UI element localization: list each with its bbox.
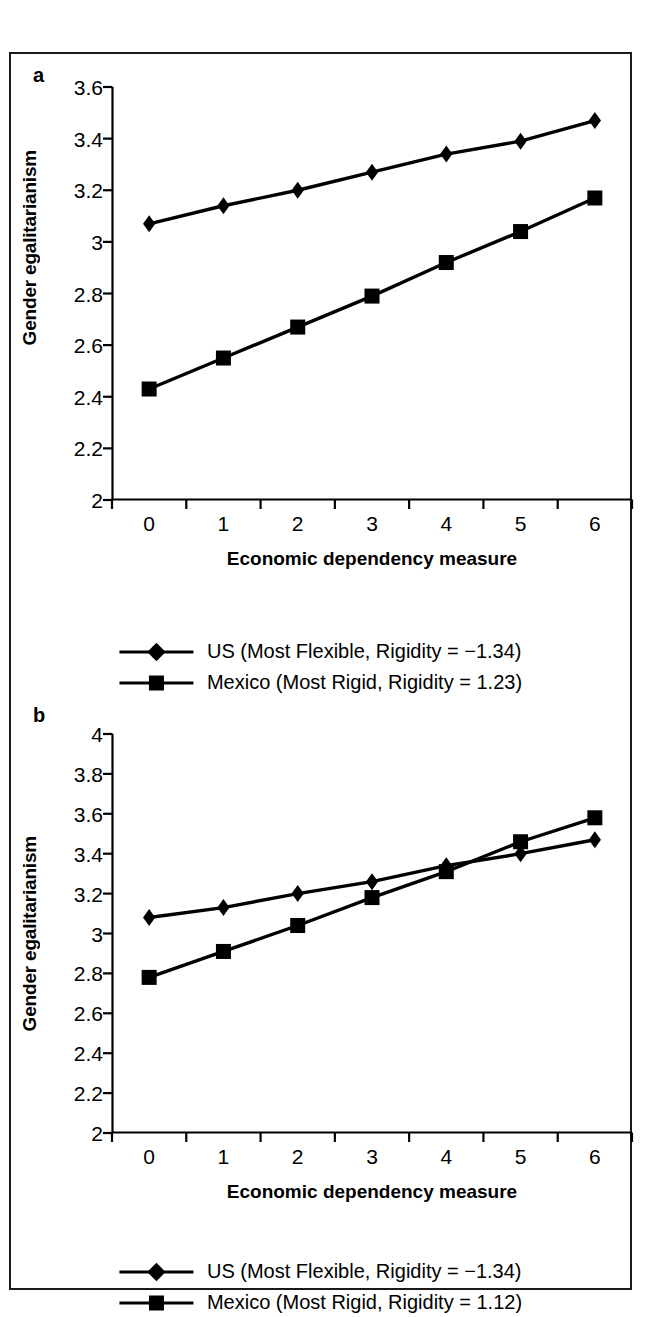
y-tick-label: 2.2 [74, 1083, 103, 1104]
x-tick-label: 0 [143, 513, 155, 534]
legend-item-us: US (Most Flexible, Rigidity = −1.34) [119, 1256, 522, 1287]
y-tick-label: 2 [91, 490, 103, 511]
y-tick-label: 2.8 [74, 963, 103, 984]
x-tick-label: 6 [589, 1146, 601, 1167]
legend-label-us: US (Most Flexible, Rigidity = −1.34) [207, 1260, 522, 1283]
data-point-marker [142, 970, 157, 985]
data-point-marker [366, 164, 378, 181]
panel-a-plot-area: 22.22.42.62.833.23.43.60123456Economic d… [112, 87, 632, 500]
x-tick-label: 2 [292, 513, 304, 534]
data-point-marker [142, 382, 157, 397]
data-point-marker [292, 182, 304, 199]
data-point-marker [290, 320, 305, 335]
y-tick-label: 3 [91, 231, 103, 252]
figure-frame: a Gender egalitarianism 22.22.42.62.833.… [9, 52, 632, 1290]
data-point-marker [589, 112, 601, 129]
data-point-marker [587, 810, 602, 825]
y-tick-label: 2.4 [74, 386, 103, 407]
x-tick-label: 1 [218, 1146, 230, 1167]
y-tick-label: 2.2 [74, 438, 103, 459]
data-point-marker [589, 831, 601, 848]
panel-b: b Gender egalitarianism 22.22.42.62.833.… [11, 668, 630, 1288]
data-point-marker [292, 885, 304, 902]
data-point-marker [365, 890, 380, 905]
y-tick-label: 3.2 [74, 883, 103, 904]
data-point-marker [366, 873, 378, 890]
data-point-marker [439, 864, 454, 879]
plot-canvas [112, 87, 632, 500]
panel-b-axes: 22.22.42.62.833.23.43.63.840123456Econom… [112, 734, 632, 1133]
x-tick-label: 6 [589, 513, 601, 534]
panel-a: a Gender egalitarianism 22.22.42.62.833.… [11, 54, 630, 668]
legend-item-mexico: Mexico (Most Rigid, Rigidity = 1.12) [119, 1287, 522, 1317]
panel-b-letter: b [33, 704, 45, 727]
data-point-marker [217, 899, 229, 916]
plot-canvas [112, 734, 632, 1133]
data-point-marker [217, 197, 229, 214]
data-point-marker [514, 133, 526, 150]
x-tick-label: 2 [292, 1146, 304, 1167]
legend-label-mexico: Mexico (Most Rigid, Rigidity = 1.12) [207, 1291, 522, 1314]
y-tick-label: 3.4 [74, 843, 103, 864]
y-tick-label: 3.2 [74, 180, 103, 201]
y-tick-label: 2.6 [74, 335, 103, 356]
x-tick-label: 0 [143, 1146, 155, 1167]
panel-a-axes: 22.22.42.62.833.23.43.60123456Economic d… [112, 87, 632, 500]
data-point-marker [439, 255, 454, 270]
x-tick-label: 3 [366, 513, 378, 534]
data-point-marker [513, 224, 528, 239]
panel-b-plot-area: 22.22.42.62.833.23.43.63.840123456Econom… [112, 734, 632, 1133]
data-point-marker [440, 146, 452, 163]
data-point-marker [143, 909, 155, 926]
y-tick-label: 2.6 [74, 1003, 103, 1024]
x-tick-label: 5 [515, 513, 527, 534]
y-tick-label: 4 [91, 724, 103, 745]
y-tick-label: 2 [91, 1123, 103, 1144]
x-tick-label: 4 [440, 513, 452, 534]
line-diamond-icon [119, 643, 193, 661]
y-tick-label: 3.6 [74, 77, 103, 98]
data-point-marker [216, 351, 231, 366]
data-point-marker [216, 944, 231, 959]
x-tick-label: 5 [515, 1146, 527, 1167]
x-tick-label: 3 [366, 1146, 378, 1167]
panel-a-y-axis-title: Gender egalitarianism [19, 150, 41, 345]
line-square-icon [119, 1294, 193, 1312]
x-tick-label: 4 [440, 1146, 452, 1167]
y-tick-label: 2.8 [74, 283, 103, 304]
panel-b-legend: US (Most Flexible, Rigidity = −1.34) Mex… [119, 1256, 522, 1317]
data-point-marker [365, 289, 380, 304]
x-axis-title: Economic dependency measure [227, 1181, 517, 1203]
y-tick-label: 2.4 [74, 1043, 103, 1064]
data-point-marker [290, 918, 305, 933]
legend-item-us: US (Most Flexible, Rigidity = −1.34) [119, 636, 522, 667]
y-tick-label: 3.8 [74, 763, 103, 784]
data-point-marker [513, 834, 528, 849]
y-tick-label: 3 [91, 923, 103, 944]
data-point-marker [143, 215, 155, 232]
x-tick-label: 1 [218, 513, 230, 534]
panel-b-y-axis-title: Gender egalitarianism [19, 836, 41, 1031]
panel-a-letter: a [33, 64, 44, 87]
legend-label-us: US (Most Flexible, Rigidity = −1.34) [207, 640, 522, 663]
y-tick-label: 3.6 [74, 803, 103, 824]
x-axis-title: Economic dependency measure [227, 548, 517, 570]
line-diamond-icon [119, 1263, 193, 1281]
y-tick-label: 3.4 [74, 128, 103, 149]
data-point-marker [587, 190, 602, 205]
